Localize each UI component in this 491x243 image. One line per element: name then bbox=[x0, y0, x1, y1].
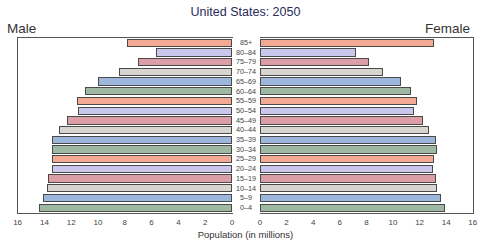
male-axis-tick: 2 bbox=[195, 218, 215, 227]
female-bar bbox=[260, 58, 369, 66]
female-bar bbox=[260, 97, 417, 105]
age-group-label: 70–74 bbox=[232, 67, 260, 77]
age-group-label: 50–54 bbox=[232, 106, 260, 116]
female-axis-tick: 14 bbox=[436, 218, 456, 227]
female-bar bbox=[260, 165, 433, 173]
male-bar bbox=[77, 97, 232, 105]
female-bar bbox=[260, 136, 436, 144]
x-axis-label: Population (in millions) bbox=[0, 229, 491, 240]
male-bar bbox=[52, 136, 232, 144]
male-axis-tick: 6 bbox=[142, 218, 162, 227]
male-bar bbox=[59, 126, 232, 134]
male-axis-tick: 12 bbox=[61, 218, 81, 227]
female-bar bbox=[260, 39, 434, 47]
female-axis-tick: 8 bbox=[356, 218, 376, 227]
age-group-label: 5–9 bbox=[232, 193, 260, 203]
female-bar bbox=[260, 107, 414, 115]
female-axis-tick: 12 bbox=[410, 218, 430, 227]
female-axis-tick: 16 bbox=[463, 218, 483, 227]
male-axis-tick: 14 bbox=[34, 218, 54, 227]
male-bar bbox=[156, 48, 232, 56]
female-label: Female bbox=[425, 21, 470, 36]
age-group-label: 75–79 bbox=[232, 57, 260, 67]
male-bar bbox=[47, 184, 232, 192]
age-group-label: 40–44 bbox=[232, 125, 260, 135]
male-axis-tick: 8 bbox=[115, 218, 135, 227]
male-bar bbox=[43, 194, 232, 202]
female-bar bbox=[260, 184, 437, 192]
chart-title: United States: 2050 bbox=[0, 5, 491, 19]
male-bar bbox=[85, 87, 232, 95]
female-bar bbox=[260, 126, 429, 134]
female-axis-tick: 0 bbox=[250, 218, 270, 227]
male-axis-tick: 0 bbox=[222, 218, 242, 227]
female-bar bbox=[260, 68, 383, 76]
male-bar bbox=[98, 77, 232, 85]
female-axis-tick: 6 bbox=[330, 218, 350, 227]
male-bar bbox=[67, 116, 232, 124]
female-bar bbox=[260, 174, 436, 182]
female-bar bbox=[260, 77, 401, 85]
age-group-label: 20–24 bbox=[232, 164, 260, 174]
female-bar bbox=[260, 116, 423, 124]
female-bar bbox=[260, 204, 445, 212]
male-bar bbox=[127, 39, 232, 47]
male-axis-tick: 16 bbox=[8, 218, 28, 227]
female-bar bbox=[260, 155, 434, 163]
male-bar bbox=[52, 165, 232, 173]
age-group-label: 10–14 bbox=[232, 184, 260, 194]
female-bar bbox=[260, 87, 411, 95]
female-bar bbox=[260, 194, 441, 202]
male-bar bbox=[78, 107, 232, 115]
age-group-label: 60–64 bbox=[232, 87, 260, 97]
age-group-label: 15–19 bbox=[232, 174, 260, 184]
male-bar bbox=[119, 68, 232, 76]
male-label: Male bbox=[7, 21, 36, 36]
age-group-label: 65–69 bbox=[232, 77, 260, 87]
age-group-label: 80–84 bbox=[232, 48, 260, 58]
male-bar bbox=[52, 145, 232, 153]
age-group-label: 0–4 bbox=[232, 203, 260, 213]
age-group-label: 85+ bbox=[232, 38, 260, 48]
age-group-label: 55–59 bbox=[232, 96, 260, 106]
male-axis-tick: 4 bbox=[168, 218, 188, 227]
male-bar bbox=[48, 174, 232, 182]
female-axis-tick: 4 bbox=[303, 218, 323, 227]
female-axis-tick: 2 bbox=[277, 218, 297, 227]
female-bar bbox=[260, 48, 356, 56]
male-axis-tick: 10 bbox=[88, 218, 108, 227]
male-bar bbox=[52, 155, 232, 163]
male-bar bbox=[39, 204, 232, 212]
female-bar bbox=[260, 145, 437, 153]
age-group-label: 25–29 bbox=[232, 154, 260, 164]
age-group-label: 45–49 bbox=[232, 116, 260, 126]
male-bar bbox=[138, 58, 232, 66]
female-axis-tick: 10 bbox=[383, 218, 403, 227]
age-group-label: 35–39 bbox=[232, 135, 260, 145]
age-group-label: 30–34 bbox=[232, 145, 260, 155]
